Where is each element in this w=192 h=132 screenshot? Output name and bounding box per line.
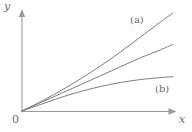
x-axis-arrowhead: [169, 108, 177, 114]
curve-b-label: (b): [155, 84, 169, 94]
curve-a-label: (a): [130, 15, 144, 25]
x-axis: [22, 108, 177, 114]
y-axis-label: y: [4, 1, 10, 12]
curve-a: [22, 13, 173, 111]
curve-group: [22, 13, 173, 111]
y-axis-arrowhead: [19, 9, 25, 17]
x-axis-label: x: [179, 114, 185, 125]
curve-middle: [22, 44, 173, 111]
curve-b: [22, 77, 173, 111]
plot-canvas: [0, 0, 192, 132]
y-axis: [19, 9, 25, 112]
figure-container: y x 0 (a) (b): [0, 0, 192, 132]
origin-label: 0: [12, 114, 19, 125]
